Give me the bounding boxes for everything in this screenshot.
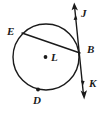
center-label-L: L [51, 52, 58, 63]
ray-label-K: K [89, 78, 96, 89]
arrow-marker-upper-icon [74, 15, 78, 21]
ray-label-J: J [81, 8, 87, 19]
point-label-E: E [7, 26, 14, 37]
circle-geometry-diagram: E B D L J K [0, 0, 108, 114]
arrow-marker-lower-icon [81, 81, 85, 86]
point-dot-L [44, 55, 48, 59]
point-dot-D [36, 88, 40, 92]
point-label-B: B [87, 44, 94, 55]
point-label-D: D [33, 95, 41, 106]
